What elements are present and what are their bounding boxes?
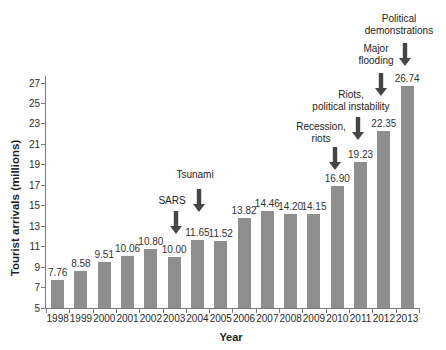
bar-value-label: 8.58 — [71, 258, 90, 269]
bar — [98, 262, 111, 308]
bar — [121, 256, 134, 308]
x-tick-label: 2013 — [392, 313, 422, 324]
bar — [74, 271, 87, 308]
y-axis-line — [45, 76, 46, 309]
bar — [238, 218, 251, 308]
bar — [401, 86, 414, 308]
down-arrow-icon — [170, 211, 182, 238]
bar — [261, 211, 274, 308]
down-arrow-icon — [352, 117, 364, 144]
bar-value-label: 14.15 — [301, 201, 326, 212]
bar-value-label: 16.90 — [325, 173, 350, 184]
y-axis-tick — [41, 246, 45, 247]
y-axis-tick — [41, 83, 45, 84]
y-tick-label: 19 — [14, 159, 40, 170]
bar-value-label: 14.20 — [278, 201, 303, 212]
bar — [307, 214, 320, 308]
bar — [284, 214, 297, 308]
y-axis-tick — [41, 144, 45, 145]
annotation-label: SARS — [158, 195, 185, 207]
bar-value-label: 11.65 — [185, 227, 209, 238]
bar — [354, 162, 367, 308]
y-axis-tick — [41, 226, 45, 227]
down-arrow-icon — [193, 189, 205, 216]
tourist-arrivals-bar-chart: Tourist arrivals (millions) Year 5791113… — [0, 0, 446, 350]
bar — [51, 280, 64, 308]
x-axis-title: Year — [206, 331, 256, 343]
y-tick-label: 9 — [14, 262, 40, 273]
bar-value-label: 22.35 — [371, 118, 396, 129]
annotation-label: Recession,riots — [296, 121, 345, 145]
bar — [377, 131, 390, 308]
down-arrow-icon — [375, 73, 387, 100]
bar-value-label: 10.06 — [115, 243, 140, 254]
bar-value-label: 9.51 — [95, 249, 114, 260]
y-tick-label: 25 — [14, 98, 40, 109]
bar — [331, 186, 344, 308]
down-arrow-icon — [399, 43, 411, 70]
y-tick-label: 17 — [14, 180, 40, 191]
y-tick-label: 23 — [14, 118, 40, 129]
bar-value-label: 19.23 — [348, 149, 373, 160]
y-tick-label: 7 — [14, 282, 40, 293]
bar — [144, 249, 157, 308]
y-tick-label: 13 — [14, 221, 40, 232]
bar-value-label: 26.74 — [395, 73, 420, 84]
annotation-label: Majorflooding — [358, 43, 393, 67]
bar-value-label: 14.46 — [255, 198, 280, 209]
bar-value-label: 13.82 — [232, 205, 257, 216]
y-axis-tick — [41, 164, 45, 165]
bar — [214, 241, 227, 308]
y-axis-tick — [41, 123, 45, 124]
y-axis-tick — [41, 267, 45, 268]
annotation-label: Politicaldemonstrations — [365, 13, 433, 37]
y-axis-tick — [41, 103, 45, 104]
y-axis-tick — [41, 185, 45, 186]
down-arrow-icon — [329, 147, 341, 174]
bar-value-label: 7.76 — [48, 267, 67, 278]
y-tick-label: 27 — [14, 78, 40, 89]
y-tick-label: 21 — [14, 139, 40, 150]
y-tick-label: 15 — [14, 200, 40, 211]
y-tick-label: 11 — [14, 241, 40, 252]
y-axis-tick — [41, 287, 45, 288]
y-axis-tick — [41, 308, 45, 309]
bar-value-label: 10.80 — [138, 236, 163, 247]
y-axis-tick — [41, 205, 45, 206]
bar-value-label: 10.00 — [162, 244, 187, 255]
bar — [168, 257, 181, 308]
bar — [191, 240, 204, 308]
annotation-label: Tsunami — [176, 169, 213, 181]
y-tick-label: 5 — [14, 303, 40, 314]
bar-value-label: 11.52 — [209, 228, 233, 239]
